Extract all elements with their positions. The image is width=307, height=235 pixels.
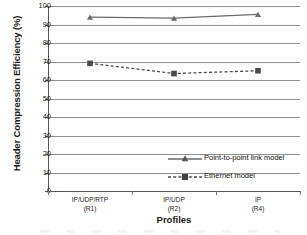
y-tick-label: 20 [7,150,51,158]
series-ethernet [87,61,261,77]
x-tick-label-main: IP/UDP [163,196,185,203]
x-tick-label-sub: (R4) [213,205,303,214]
y-tick-label: 10 [7,169,51,177]
y-tick-label: 40 [7,113,51,121]
header-compression-efficiency-chart: Header Compression Efficiency (%) 100908… [0,0,307,235]
series-point-to-point [87,12,261,21]
x-tick [216,191,217,195]
scan-artifact [40,230,280,233]
x-axis-line [48,191,300,192]
chart-legend: Point-to-point link model Ethernet model [168,148,302,184]
x-axis-title: Profiles [48,214,300,225]
y-tick-label: 90 [7,21,51,29]
y-tick-label: 100 [7,2,51,10]
legend-label-ethernet: Ethernet model [202,171,255,180]
x-tick-label-main: IP/UDP/RTP [72,196,108,203]
square-data-point [87,61,93,67]
legend-label-point-to-point: Point-to-point link model [202,153,284,162]
legend-item-ethernet: Ethernet model [168,166,302,184]
legend-item-point-to-point: Point-to-point link model [168,148,302,166]
x-tick-label-sub: (R1) [45,205,135,214]
x-tick [132,191,133,195]
x-tick-label: IP(R4) [213,196,303,213]
y-tick-label: 0 [7,187,51,195]
x-tick [48,191,49,195]
y-tick-label: 50 [7,95,51,103]
square-data-point [171,71,177,77]
x-tick-label-main: IP [255,196,261,203]
y-tick-label: 70 [7,58,51,66]
y-tick-label: 80 [7,39,51,47]
x-tick-label: IP/UDP(R2) [129,196,219,213]
square-marker [168,169,202,181]
x-tick-label: IP/UDP/RTP(R1) [45,196,135,213]
y-tick-label: 60 [7,76,51,84]
triangle-marker [168,151,202,163]
x-tick [300,191,301,195]
square-data-point [255,68,261,74]
y-tick-label: 30 [7,132,51,140]
x-tick-label-sub: (R2) [129,205,219,214]
